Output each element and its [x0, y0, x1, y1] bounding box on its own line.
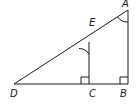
label-e: E	[89, 17, 96, 28]
label-b: B	[120, 88, 127, 99]
label-a: A	[121, 0, 129, 9]
angle-arc-a	[118, 17, 129, 22]
right-angle-marker-c	[81, 77, 89, 84]
segment-da	[14, 10, 128, 84]
angle-arc-e	[79, 49, 89, 55]
label-c: C	[89, 88, 96, 99]
triangle-diagram: A E D C B	[0, 0, 137, 104]
label-d: D	[10, 88, 18, 99]
right-angle-marker-b	[120, 77, 128, 84]
